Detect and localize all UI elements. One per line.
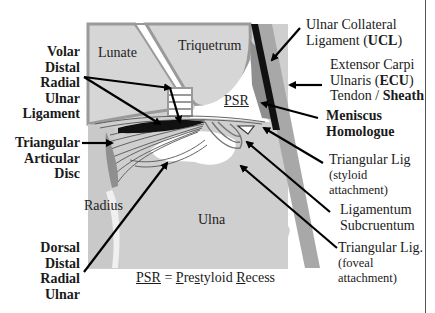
label-triangular-articular-disc: Triangular Articular Disc: [15, 135, 80, 182]
lunate-label: Lunate: [98, 45, 137, 61]
radius-label: Radius: [84, 198, 123, 214]
triquetrum-label: Triquetrum: [178, 38, 241, 54]
label-dorsal-drul: Dorsal Distal Radial Ulnar: [40, 240, 80, 302]
frame-border-line: [425, 0, 426, 313]
label-triangular-lig-styloid: Triangular Lig (styloid attachment): [329, 152, 411, 199]
label-triangular-lig-foveal: Triangular Lig. (foveal attachment): [338, 240, 423, 287]
ulna-label: Ulna: [198, 212, 225, 228]
label-meniscus-homologue: Meniscus Homologue: [326, 108, 394, 139]
label-ecu: Extensor Carpi Ulnaris (ECU) Tendon / Sh…: [330, 57, 424, 104]
label-ligamentum-subcruentum: Ligamentum Subcruentum: [340, 202, 415, 233]
psr-legend: PSR = Prestyloid Recess: [136, 270, 275, 286]
label-volar-drul: Volar Distal Radial Ulnar Ligament: [22, 44, 80, 122]
tfcc-anatomy-diagram: Lunate Triquetrum PSR Radius Ulna Volar …: [0, 0, 435, 313]
label-ucl: Ulnar Collateral Ligament (UCL): [306, 17, 402, 48]
psr-label: PSR: [224, 93, 249, 109]
